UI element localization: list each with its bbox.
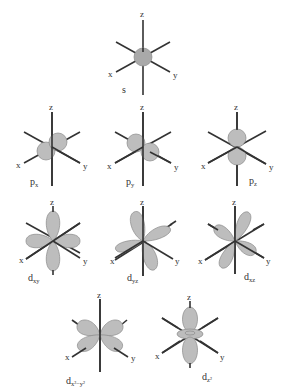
orbital-px: z x y px xyxy=(16,102,88,188)
axis-label-x: x xyxy=(201,161,206,171)
axis-label-y: y xyxy=(174,162,179,172)
orbital-pz: z x y pz xyxy=(201,102,274,187)
axis-label-x: x xyxy=(19,255,24,265)
orbital-label-dxy: dxy xyxy=(28,272,40,284)
orbital-dx2-y2: z x y dx²−y² xyxy=(65,290,136,387)
orbital-s: z x y s xyxy=(108,9,178,95)
axis-label-x: x xyxy=(198,256,203,266)
axis-label-z: z xyxy=(97,290,101,300)
axis-label-x: x xyxy=(155,351,160,361)
axis-label-x: x xyxy=(65,352,70,362)
axis-label-z: z xyxy=(140,197,144,207)
axis-label-x: x xyxy=(16,160,21,170)
orbital-label-dyz: dyz xyxy=(127,272,138,284)
axis-label-y: y xyxy=(269,162,274,172)
orbital-label-px: px xyxy=(30,176,39,188)
axis-label-y: y xyxy=(83,161,88,171)
orbital-dxy: z x y dxy xyxy=(19,197,88,284)
orbital-label-s: s xyxy=(122,84,126,95)
orbital-label-py: py xyxy=(126,176,135,188)
axis-label-y: y xyxy=(173,70,178,80)
orbital-dyz: z x y dyz xyxy=(110,197,180,284)
orbital-label-dxz: dxz xyxy=(244,271,255,283)
axis-label-x: x xyxy=(110,256,115,266)
axis-label-z: z xyxy=(232,197,236,207)
orbital-diagram: z x y s z x y px z x y py xyxy=(0,0,290,391)
axis-label-z: z xyxy=(50,197,54,207)
axis-label-y: y xyxy=(175,256,180,266)
axis-label-z: z xyxy=(140,102,144,112)
orbital-label-pz: pz xyxy=(249,175,257,187)
axis-label-y: y xyxy=(83,256,88,266)
axis-label-x: x xyxy=(107,161,112,171)
axis-label-y: y xyxy=(266,256,271,266)
orbital-label-dz2: dz² xyxy=(202,371,212,383)
axis-label-x: x xyxy=(108,69,113,79)
axis-label-z: z xyxy=(234,102,238,112)
axis-label-y: y xyxy=(220,352,225,362)
axis-label-y: y xyxy=(131,353,136,363)
orbital-dxz: z x y dxz xyxy=(198,197,271,283)
orbital-label-dx2-y2: dx²−y² xyxy=(66,375,85,387)
axis-label-z: z xyxy=(140,9,144,19)
orbital-py: z x y py xyxy=(107,102,179,188)
orbital-dz2: z x y dz² xyxy=(155,292,225,383)
axis-label-z: z xyxy=(49,102,53,112)
axis-label-z: z xyxy=(187,292,191,302)
